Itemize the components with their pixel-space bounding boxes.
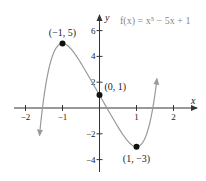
x-axis-label: x <box>190 95 196 106</box>
point-marker <box>97 92 103 98</box>
function-plot: −2−112642−2−4 x y f(x) = x⁵ − 5x + 1 (−1… <box>0 0 206 181</box>
point-marker <box>60 41 66 47</box>
point-label: (0, 1) <box>105 81 127 93</box>
point-label: (−1, 5) <box>49 27 76 39</box>
function-label: f(x) = x⁵ − 5x + 1 <box>120 15 190 27</box>
x-tick-label: 2 <box>171 112 176 122</box>
x-tick-label: −2 <box>21 112 31 122</box>
y-tick-label: 6 <box>91 26 96 36</box>
y-axis-label: y <box>104 12 110 23</box>
y-tick-label: −4 <box>86 155 96 165</box>
point-marker <box>134 144 140 150</box>
x-tick-label: −1 <box>58 112 68 122</box>
y-tick-label: −2 <box>86 129 96 139</box>
point-label: (1, −3) <box>123 153 150 165</box>
y-tick-label: 4 <box>91 51 96 61</box>
x-tick-label: 1 <box>134 112 139 122</box>
